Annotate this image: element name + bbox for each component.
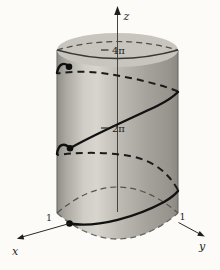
y-unit-label: 1 (179, 211, 185, 222)
figure-canvas: z 4π 2π 1 1 x y (0, 0, 220, 270)
tick-label-4pi: 4π (112, 45, 125, 56)
x-axis-label: x (12, 245, 19, 258)
x-axis-line (21, 224, 70, 238)
x-unit-label: 1 (46, 212, 52, 223)
z-axis-label: z (123, 10, 130, 23)
z-axis-arrowhead-icon (114, 6, 121, 15)
y-axis-arrowhead-icon (197, 231, 205, 237)
y-axis-line (179, 223, 202, 235)
tick-label-2pi: 2π (112, 123, 125, 134)
helix-point-t4pi (66, 64, 73, 71)
helix-on-cylinder-figure: z 4π 2π 1 1 x y (0, 0, 220, 270)
x-axis-arrowhead-icon (17, 234, 24, 239)
y-axis-label: y (198, 240, 206, 253)
helix-point-t2pi (67, 145, 74, 152)
